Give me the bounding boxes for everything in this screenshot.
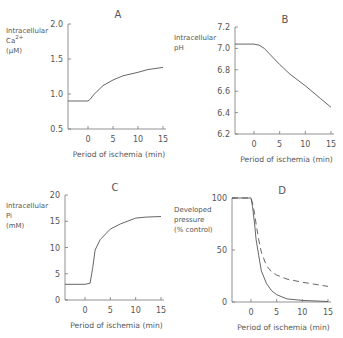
y-axis-label: Intracellular — [174, 34, 216, 42]
y-axis-label: Intracellular — [6, 27, 48, 35]
y-tick-label: 20 — [50, 191, 60, 200]
x-tick-label: 10 — [297, 308, 307, 317]
x-tick-label: 0 — [82, 306, 87, 315]
y-tick-label: 0 — [222, 298, 227, 307]
series-ca-line — [68, 67, 163, 101]
y-tick-label: 10 — [50, 244, 60, 253]
y-tick-label: 15 — [50, 217, 60, 226]
y-tick-label: 6.8 — [217, 66, 230, 75]
x-tick-label: 10 — [300, 140, 310, 149]
y-tick-label: 5 — [55, 270, 60, 279]
panel-a: 0.51.01.52.0051015APeriod of ischemia (m… — [6, 9, 168, 159]
y-axis-label: (µM) — [6, 47, 22, 55]
figure: 0.51.01.52.0051015APeriod of ischemia (m… — [0, 0, 343, 338]
y-axis-label: pH — [174, 44, 184, 52]
x-tick-label: 0 — [85, 135, 90, 144]
y-axis-label: (mM) — [6, 222, 25, 230]
x-tick-label: 5 — [274, 308, 279, 317]
x-tick-label: 15 — [323, 308, 333, 317]
y-tick-label: 6.2 — [217, 130, 230, 139]
y-tick-label: 0.5 — [50, 125, 63, 134]
y-axis-label: (% control) — [174, 226, 213, 234]
x-axis-label: Period of ischemia (min) — [73, 150, 165, 159]
y-tick-label: 1.0 — [50, 90, 63, 99]
y-tick-label: 1.5 — [50, 55, 63, 64]
y-tick-label: 0 — [55, 296, 60, 305]
series-solid-line — [232, 198, 328, 302]
x-tick-label: 10 — [131, 306, 141, 315]
panel-b: 6.26.46.66.87.07.2051015BPeriod of ische… — [174, 14, 336, 164]
series-ph-line — [235, 44, 331, 107]
x-tick-label: 15 — [326, 140, 336, 149]
x-tick-label: 0 — [248, 308, 253, 317]
panel-title: D — [278, 185, 286, 196]
y-axis-label: Developed — [174, 206, 212, 214]
x-tick-label: 5 — [277, 140, 282, 149]
y-axis-label: Ca2+ — [6, 34, 24, 45]
series-dashed-line — [232, 198, 328, 286]
y-tick-label: 6.6 — [217, 87, 230, 96]
y-tick-label: 50 — [217, 246, 227, 255]
y-tick-label: 7.2 — [217, 23, 230, 32]
x-tick-label: 5 — [110, 135, 115, 144]
y-tick-label: 6.4 — [217, 109, 230, 118]
panel-title: C — [112, 182, 119, 193]
x-axis-label: Period of ischemia (min) — [240, 155, 332, 164]
x-axis-label: Period of ischemia (min) — [237, 323, 329, 332]
x-tick-label: 5 — [108, 306, 113, 315]
x-tick-label: 10 — [133, 135, 143, 144]
y-tick-label: 100 — [212, 194, 227, 203]
series-pi-line — [65, 217, 161, 285]
y-axis-label: Intracellular — [6, 202, 48, 210]
y-tick-label: 7.0 — [217, 44, 230, 53]
x-axis-label: Period of ischemia (min) — [70, 321, 162, 330]
panel-title: A — [115, 9, 122, 20]
panel-c: 05101520051015CPeriod of ischemia (min)I… — [6, 182, 166, 330]
panel-d: 050100051015DPeriod of ischemia (min)Dev… — [174, 185, 333, 332]
x-tick-label: 0 — [251, 140, 256, 149]
y-axis-label: Pi — [6, 212, 12, 220]
y-axis-label: pressure — [174, 216, 204, 224]
y-tick-label: 2.0 — [50, 20, 63, 29]
x-tick-label: 15 — [158, 135, 168, 144]
panel-title: B — [282, 14, 289, 25]
x-tick-label: 15 — [156, 306, 166, 315]
